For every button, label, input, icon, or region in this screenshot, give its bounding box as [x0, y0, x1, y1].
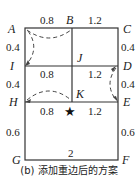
vertex-I: I [9, 59, 15, 73]
weight-H-K: 0.8 [40, 105, 54, 117]
dup-edge-D-E [110, 68, 116, 100]
dup-edge-A-I [27, 31, 34, 64]
vertex-A: A [7, 22, 16, 36]
graph-edges [25, 28, 118, 160]
arrow-to-I-icon [25, 60, 30, 66]
vertex-E: E [122, 95, 131, 109]
route-graph-diagram: A B C I J D H K E G F 0.8 1.2 0.4 0.4 0.… [0, 0, 138, 179]
vertex-B: B [66, 13, 74, 27]
vertex-K: K [75, 87, 85, 101]
vertex-J: J [77, 51, 83, 65]
weight-I-J: 0.8 [40, 68, 54, 80]
arrow-to-E-icon [113, 96, 118, 102]
weight-A-I: 0.4 [6, 41, 20, 53]
start-star-icon: ★ [64, 104, 76, 119]
vertex-D: D [122, 59, 132, 73]
weight-C-D: 0.4 [121, 41, 135, 53]
vertex-H: H [8, 95, 19, 109]
vertex-C: C [123, 22, 132, 36]
dup-edge-H-K [27, 91, 71, 100]
weight-E-F: 0.6 [121, 126, 135, 138]
weight-A-B: 0.8 [40, 14, 54, 26]
dup-edge-A-B [27, 30, 71, 38]
weight-D-E: 0.4 [121, 78, 135, 90]
weight-H-G: 0.6 [6, 126, 20, 138]
figure-caption: (b) 添加重边后的方案 [0, 162, 138, 177]
weight-K-E: 1.2 [88, 105, 102, 117]
weight-G-F: 2 [68, 147, 74, 159]
weight-I-H: 0.4 [6, 78, 20, 90]
weight-J-D: 1.2 [88, 68, 102, 80]
weight-B-C: 1.2 [88, 14, 102, 26]
